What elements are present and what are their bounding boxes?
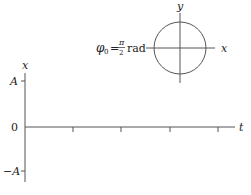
fraction-denominator: 2	[119, 49, 123, 57]
tick-label-A: A	[9, 75, 18, 88]
circle-y-label: y	[176, 0, 184, 13]
position-time-graph: x t A 0 −A	[3, 59, 244, 182]
phase-diagram: x y φ 0 = π 2 rad x t A 0 −A	[0, 0, 251, 195]
horizontal-axis-label: t	[239, 121, 244, 134]
tick-label-minus-A: −A	[3, 165, 20, 178]
fraction-numerator: π	[118, 38, 125, 47]
phase-constant-label: φ 0 = π 2 rad	[96, 38, 146, 57]
phi-subscript: 0	[104, 48, 108, 56]
circle-x-label: x	[221, 42, 228, 55]
tick-label-zero: 0	[11, 121, 18, 134]
equals-sign: =	[110, 42, 119, 55]
vertical-axis-label: x	[22, 59, 29, 72]
phasor-circle-diagram: x y	[146, 0, 228, 83]
unit-rad: rad	[127, 42, 146, 55]
